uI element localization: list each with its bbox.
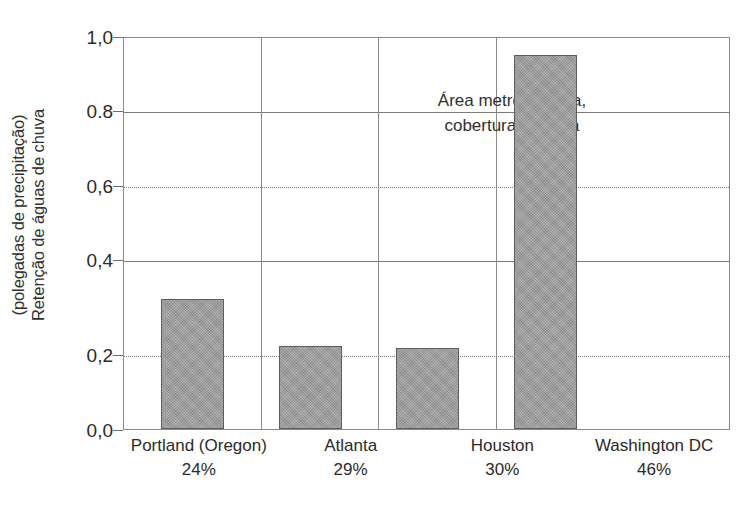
chart-annotation: Área metropolitana, cobertura arbórea [362,88,662,138]
y-tick-mark-0-6 [113,186,123,187]
y-tick-mark-0-2 [113,355,123,356]
y-tick-mark-0-0 [113,430,123,431]
x-axis-label-houston: Houston 30% [427,434,579,504]
y-tick-label-0-2: 0,2 [57,346,113,365]
x-axis-labels: Portland (Oregon) 24% Atlanta 29% Housto… [123,434,730,504]
bar-washington-dc [514,55,577,429]
y-tick-label-0-6: 0,6 [57,177,113,196]
x-axis-label-portland: Portland (Oregon) 24% [123,434,275,504]
x-axis-label-portland-pct: 24% [123,458,275,482]
gridline-x-divider-2 [378,38,379,429]
gridline-x-divider-1 [261,38,262,429]
gridline-y-0-8 [124,112,729,113]
y-tick-label-1-0: 1,0 [57,28,113,47]
y-tick-label-0-4: 0,4 [57,251,113,270]
y-tick-label-0-8: 0.8 [57,102,113,121]
bar-houston [396,348,459,429]
bar-atlanta [279,346,342,429]
bar-chart: Retenção de águas de chuva (polegadas de… [0,0,752,509]
x-axis-label-atlanta: Atlanta 29% [275,434,427,504]
x-axis-label-atlanta-pct: 29% [275,458,427,482]
x-axis-label-washington-dc-name: Washington DC [578,434,730,458]
x-axis-label-portland-name: Portland (Oregon) [123,434,275,458]
plot-area: Área metropolitana, cobertura arbórea [123,37,730,430]
y-axis-title: Retenção de águas de chuva (polegadas de… [0,0,56,430]
gridline-x-divider-3 [496,38,497,429]
x-axis-label-houston-pct: 30% [427,458,579,482]
y-axis-title-line2: (polegadas de precipitação) [8,115,28,316]
x-axis-label-atlanta-name: Atlanta [275,434,427,458]
x-axis-label-washington-dc-pct: 46% [578,458,730,482]
y-axis-tick-labels: 1,0 0.8 0,6 0,4 0,2 0,0 [53,0,113,509]
gridline-y-0-4 [124,261,729,262]
y-tick-mark-0-4 [113,260,123,261]
x-axis-label-washington-dc: Washington DC 46% [578,434,730,504]
y-tick-label-0-0: 0,0 [57,421,113,440]
y-tick-mark-0-8 [113,111,123,112]
y-tick-mark-1-0 [113,37,123,38]
x-axis-label-houston-name: Houston [427,434,579,458]
y-axis-title-line1: Retenção de águas de chuva [28,109,48,321]
bar-portland [161,299,224,429]
gridline-y-0-6 [124,187,729,188]
